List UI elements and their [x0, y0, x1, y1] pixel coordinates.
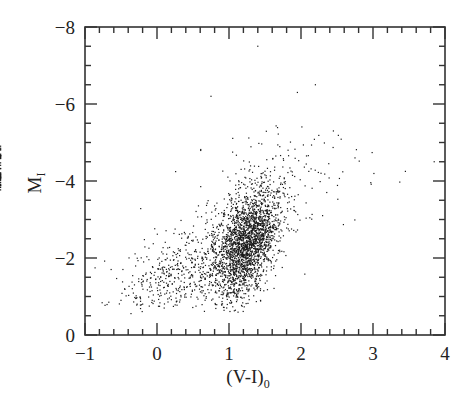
y-tick-label: −6	[55, 94, 75, 115]
x-tick-label: 1	[224, 343, 234, 364]
x-tick-label: 2	[296, 343, 306, 364]
x-axis-label: (V-I)0	[226, 366, 269, 391]
y-tick-label: −2	[55, 248, 75, 269]
y-tick-label: −8	[55, 17, 75, 38]
y-axis-label: MI	[24, 173, 48, 194]
scatter-chart: −101234 0−2−4−6−8 (V-I)0 MI	[0, 0, 471, 403]
plot-frame	[85, 27, 445, 335]
y-tick-label: 0	[66, 325, 76, 346]
y-tick-label: −4	[55, 171, 76, 192]
x-tick-label: 0	[152, 343, 162, 364]
x-tick-label: 3	[368, 343, 378, 364]
x-tick-label: −1	[75, 343, 95, 364]
x-tick-label: 4	[440, 343, 450, 364]
